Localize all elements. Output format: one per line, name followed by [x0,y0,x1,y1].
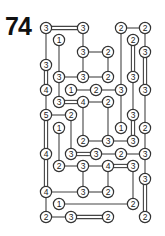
island[interactable]: 2 [139,211,150,222]
island[interactable]: 3 [127,160,138,171]
island-value: 2 [106,47,111,57]
island[interactable]: 5 [40,109,51,120]
island-value: 3 [81,187,86,197]
island-value: 1 [119,123,124,133]
island-value: 2 [69,110,74,120]
island-value: 3 [131,110,136,120]
island-value: 3 [143,47,148,57]
island-value: 2 [143,212,148,222]
island-value: 3 [143,174,148,184]
island[interactable]: 3 [139,84,150,95]
island-value: 3 [81,47,86,57]
island[interactable]: 2 [53,160,64,171]
island[interactable]: 2 [65,109,76,120]
island[interactable]: 2 [139,122,150,133]
island-value: 2 [44,212,49,222]
island-value: 2 [119,149,124,159]
island[interactable]: 3 [139,148,150,159]
island[interactable]: 2 [77,135,88,146]
island[interactable]: 3 [127,109,138,120]
island[interactable]: 1 [53,198,64,209]
island[interactable]: 2 [139,22,150,33]
island[interactable]: 3 [65,211,76,222]
island[interactable]: 3 [90,148,101,159]
island[interactable]: 2 [102,186,113,197]
island[interactable]: 3 [77,71,88,82]
island-value: 3 [131,161,136,171]
island-value: 3 [57,72,62,82]
island[interactable]: 2 [102,211,113,222]
puzzle-board[interactable]: 3322123233332341233342523112233433232343… [0,0,165,236]
island-value: 1 [57,35,62,45]
island-value: 3 [119,85,124,95]
island[interactable]: 4 [102,160,113,171]
island-value: 4 [106,161,111,171]
island-value: 5 [44,110,49,120]
island-value: 2 [143,123,148,133]
island[interactable]: 2 [40,211,51,222]
island[interactable]: 2 [115,148,126,159]
island[interactable]: 2 [127,34,138,45]
island[interactable]: 3 [127,135,138,146]
island[interactable]: 2 [115,22,126,33]
island-value: 2 [131,199,136,209]
island-value: 2 [106,97,111,107]
island[interactable]: 3 [115,84,126,95]
island-value: 4 [44,149,49,159]
island-value: 2 [131,35,136,45]
island-value: 3 [81,72,86,82]
island[interactable]: 3 [40,22,51,33]
island[interactable]: 1 [53,122,64,133]
island-value: 3 [131,72,136,82]
island-value: 3 [94,149,99,159]
island[interactable]: 1 [65,84,76,95]
island-value: 2 [119,23,124,33]
island-value: 2 [94,85,99,95]
island-value: 2 [143,23,148,33]
island[interactable]: 3 [127,71,138,82]
island-value: 2 [57,161,62,171]
island[interactable]: 3 [77,186,88,197]
island[interactable]: 2 [90,84,101,95]
island[interactable]: 2 [102,96,113,107]
island[interactable]: 4 [40,148,51,159]
island-value: 3 [69,212,74,222]
island-value: 3 [69,149,74,159]
island-value: 4 [81,97,86,107]
island-value: 3 [143,85,148,95]
island[interactable]: 2 [127,198,138,209]
island-value: 4 [44,85,49,95]
island-value: 2 [81,136,86,146]
island[interactable]: 1 [115,122,126,133]
island-value: 1 [57,123,62,133]
island[interactable]: 3 [102,135,113,146]
island-value: 2 [106,212,111,222]
island-value: 3 [44,60,49,70]
island-value: 3 [81,23,86,33]
island[interactable]: 3 [77,160,88,171]
island-value: 3 [143,149,148,159]
island[interactable]: 3 [77,22,88,33]
island[interactable]: 2 [102,46,113,57]
island-value: 3 [131,136,136,146]
island-value: 2 [106,72,111,82]
island[interactable]: 3 [53,71,64,82]
island-value: 3 [106,136,111,146]
island[interactable]: 3 [53,96,64,107]
island-value: 2 [106,187,111,197]
island-value: 3 [57,97,62,107]
island-value: 3 [81,161,86,171]
island-value: 1 [69,85,74,95]
island[interactable]: 3 [139,173,150,184]
island[interactable]: 3 [65,148,76,159]
island[interactable]: 3 [139,46,150,57]
island[interactable]: 2 [102,71,113,82]
island[interactable]: 1 [53,34,64,45]
island[interactable]: 4 [77,96,88,107]
island[interactable]: 3 [77,46,88,57]
island[interactable]: 3 [40,59,51,70]
island-value: 3 [44,23,49,33]
island[interactable]: 4 [40,84,51,95]
island-value: 1 [57,199,62,209]
island[interactable]: 4 [40,186,51,197]
